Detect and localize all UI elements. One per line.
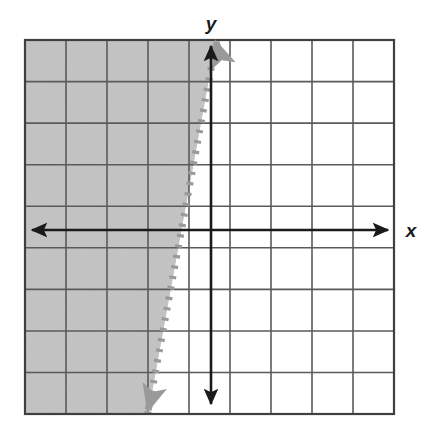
graph-svg: y x [0,0,433,434]
inequality-graph-figure: y x [0,0,433,434]
x-axis-label: x [405,220,418,241]
y-axis-label: y [205,13,218,34]
